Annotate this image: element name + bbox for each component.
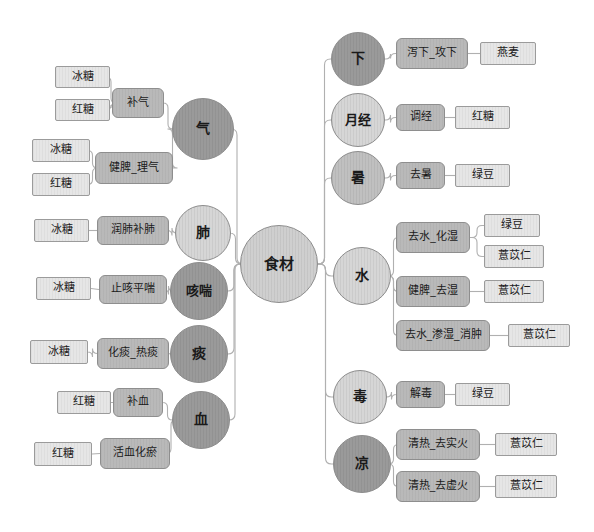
function-box-%E8%A1%A5%E8%A1%80[interactable]: 补血 [113, 388, 163, 417]
ingredient-box-%E5%86%B0%E7%B3%96[interactable]: 冰糖 [34, 219, 89, 242]
ingredient-box-%E7%BB%BF%E8%B1%86[interactable]: 绿豆 [484, 214, 540, 237]
edge [88, 349, 98, 358]
function-box-%E6%B6%A6%E8%82%BA%E8%A1%A5%E8%82%BA[interactable]: 润肺补肺 [97, 216, 169, 245]
function-box-%E6%B8%85%E7%83%AD_%E5%8E%BB%E8%99%9A%E7%81%AB[interactable]: 清热_去虚火 [396, 471, 480, 502]
ingredient-box-%E7%BA%A2%E7%B3%96[interactable]: 红糖 [55, 99, 110, 121]
ingredient-box-%E8%96%8F%E8%8B%A1%E4%BB%81[interactable]: 薏苡仁 [484, 280, 544, 303]
edge [318, 264, 333, 397]
edge [385, 54, 396, 60]
function-box-%E8%A1%A5%E6%B0%94[interactable]: 补气 [112, 88, 164, 118]
ingredient-box-%E5%86%B0%E7%B3%96[interactable]: 冰糖 [32, 139, 90, 162]
edge [92, 454, 100, 455]
edge [385, 173, 396, 181]
function-box-%E8%A7%A3%E6%AF%92[interactable]: 解毒 [396, 381, 445, 408]
category-node-%E5%87%89[interactable]: 凉 [333, 435, 391, 493]
ingredient-box-%E7%BA%A2%E7%B3%96[interactable]: 红糖 [32, 173, 90, 196]
function-box-%E8%B0%83%E7%BB%8F[interactable]: 调经 [396, 104, 445, 131]
category-node-%E5%92%B3%E5%96%98[interactable]: 咳喘 [170, 262, 228, 320]
category-node-%E6%AF%92[interactable]: 毒 [333, 370, 387, 424]
ingredient-box-%E8%96%8F%E8%8B%A1%E4%BB%81[interactable]: 薏苡仁 [484, 245, 544, 268]
ingredient-box-%E5%86%B0%E7%B3%96[interactable]: 冰糖 [55, 66, 110, 88]
category-node-%E7%97%B0[interactable]: 痰 [170, 325, 228, 383]
category-node-%E8%A1%80[interactable]: 血 [172, 391, 230, 449]
function-box-%E6%B3%BB%E4%B8%8B_%E6%94%BB%E4%B8%8B[interactable]: 泻下_攻下 [396, 38, 468, 69]
function-box-%E5%8E%BB%E6%9A%91[interactable]: 去暑 [396, 162, 445, 189]
edge [91, 289, 99, 290]
ingredient-box-%E8%96%8F%E8%8B%A1%E4%BB%81[interactable]: 薏苡仁 [508, 324, 570, 347]
diagram-canvas: 食材气补气冰糖红糖健脾_理气冰糖红糖肺润肺补肺冰糖咳喘止咳平喘冰糖痰化痰_热痰冰… [0, 0, 594, 532]
edge [318, 264, 333, 276]
function-box-%E5%81%A5%E8%84%BE_%E7%90%86%E6%B0%94[interactable]: 健脾_理气 [95, 152, 173, 184]
edge [470, 226, 484, 238]
category-node-%E6%B0%B4[interactable]: 水 [333, 247, 391, 305]
category-node-%E8%82%BA[interactable]: 肺 [175, 205, 231, 261]
category-node-%E6%9C%88%E7%BB%8F[interactable]: 月经 [331, 93, 385, 147]
ingredient-box-%E7%BB%BF%E8%B1%86[interactable]: 绿豆 [455, 383, 510, 406]
edge [229, 264, 241, 420]
function-box-%E5%8C%96%E7%97%B0_%E7%83%AD%E7%97%B0[interactable]: 化痰_热痰 [97, 338, 169, 369]
ingredient-box-%E7%BA%A2%E7%B3%96[interactable]: 红糖 [455, 106, 510, 129]
function-box-%E6%B4%BB%E8%A1%80%E5%8C%96%E7%98%80[interactable]: 活血化瘀 [100, 438, 170, 469]
ingredient-box-%E7%BB%BF%E8%B1%86[interactable]: 绿豆 [455, 164, 510, 187]
ingredient-box-%E7%BA%A2%E7%B3%96[interactable]: 红糖 [57, 391, 111, 414]
category-node-%E6%9A%91[interactable]: 暑 [331, 151, 385, 205]
ingredient-box-%E7%87%95%E9%BA%A6[interactable]: 燕麦 [480, 42, 536, 65]
function-box-%E5%8E%BB%E6%B0%B4_%E5%8C%96%E6%B9%BF[interactable]: 去水_化湿 [396, 222, 470, 253]
category-node-%E6%B0%94[interactable]: 气 [172, 98, 234, 160]
ingredient-box-%E8%96%8F%E8%8B%A1%E4%BB%81[interactable]: 薏苡仁 [495, 433, 557, 456]
edge [387, 392, 397, 400]
edge [385, 115, 396, 123]
edge [318, 120, 331, 264]
edge [163, 403, 173, 421]
ingredient-box-%E7%BA%A2%E7%B3%96[interactable]: 红糖 [34, 442, 92, 466]
function-box-%E6%B8%85%E7%83%AD_%E5%8E%BB%E5%AE%9E%E7%81%AB[interactable]: 清热_去实火 [396, 429, 480, 460]
category-node-%E4%B8%8B[interactable]: 下 [331, 32, 385, 86]
edge [228, 264, 240, 354]
edge [231, 129, 243, 264]
function-box-%E5%81%A5%E8%84%BE_%E5%8E%BB%E6%B9%BF[interactable]: 健脾_去湿 [396, 276, 470, 307]
edge [470, 238, 484, 257]
ingredient-box-%E8%96%8F%E8%8B%A1%E4%BB%81[interactable]: 薏苡仁 [495, 475, 557, 498]
root-node-食材[interactable]: 食材 [240, 225, 318, 303]
function-box-%E5%8E%BB%E6%B0%B4_%E6%B8%97%E6%B9%BF_%E6%B6%88%E8%82%BF[interactable]: 去水_渗湿_消肿 [396, 320, 490, 351]
function-box-%E6%AD%A2%E5%92%B3%E5%B9%B3%E5%96%98[interactable]: 止咳平喘 [99, 275, 167, 304]
edge [318, 264, 333, 464]
ingredient-box-%E5%86%B0%E7%B3%96[interactable]: 冰糖 [30, 340, 88, 364]
edge [318, 178, 331, 264]
edge [228, 264, 240, 291]
edge [318, 59, 331, 264]
ingredient-box-%E5%86%B0%E7%B3%96[interactable]: 冰糖 [36, 277, 91, 300]
